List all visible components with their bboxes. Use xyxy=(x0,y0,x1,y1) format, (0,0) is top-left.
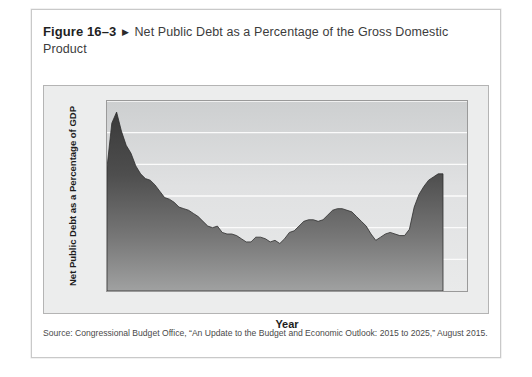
x-tick-minor-1955 xyxy=(155,291,156,292)
y-axis-title-text: Net Public Debt as a Percentage of GDP xyxy=(67,106,79,286)
figure-caption: Figure 16–3▶Net Public Debt as a Percent… xyxy=(43,23,489,58)
x-tick-1960 xyxy=(179,291,180,292)
x-tick-minor-1995 xyxy=(347,291,348,292)
x-tick-1980 xyxy=(275,291,276,292)
x-tick-2010 xyxy=(419,291,420,292)
x-tick-2000 xyxy=(371,291,372,292)
x-tick-minor-1945 xyxy=(107,291,108,292)
x-tick-1970 xyxy=(227,291,228,292)
y-axis-title: Net Public Debt as a Percentage of GDP xyxy=(56,100,90,292)
x-tick-1990 xyxy=(323,291,324,292)
x-tick-minor-2015 xyxy=(443,291,444,292)
debt-area-series xyxy=(107,112,443,291)
x-tick-minor-1975 xyxy=(251,291,252,292)
x-tick-minor-2005 xyxy=(395,291,396,292)
figure-container: Figure 16–3▶Net Public Debt as a Percent… xyxy=(31,9,501,358)
source-note: Source: Congressional Budget Office, “An… xyxy=(43,328,491,339)
figure-number: Figure 16–3 xyxy=(43,24,116,39)
chart-panel: Net Public Debt as a Percentage of GDP 0… xyxy=(43,85,489,314)
x-tick-minor-1985 xyxy=(299,291,300,292)
area-chart-svg xyxy=(107,101,467,291)
caption-arrow-icon: ▶ xyxy=(122,24,129,41)
x-tick-minor-1965 xyxy=(203,291,204,292)
x-tick-1950 xyxy=(131,291,132,292)
x-tick-2020 xyxy=(467,291,468,292)
plot-area: 020406080100120 195019601970198019902000… xyxy=(106,100,468,292)
